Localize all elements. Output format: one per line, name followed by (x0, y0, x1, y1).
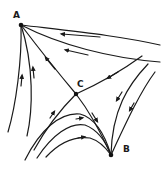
separatrix-ab (34, 56, 142, 155)
arrow-icon (108, 72, 118, 78)
curves-into-b (25, 64, 155, 160)
node-c (74, 92, 78, 96)
arrow-icon (50, 112, 54, 118)
label-c: C (77, 79, 84, 89)
curve-b-right-1 (111, 64, 148, 155)
curve-a-upper-2 (21, 25, 160, 62)
arrow-icon (46, 58, 55, 69)
arrow-icon (117, 92, 122, 100)
arrow-icon (76, 118, 82, 119)
arrow-icon (62, 34, 100, 37)
curve-b-lower-3 (46, 138, 111, 157)
streamline-diagram: A C B (0, 0, 161, 170)
curve-b-lower-1 (25, 114, 111, 160)
arrow-icon (66, 50, 88, 55)
curve-a-left-1 (8, 25, 21, 132)
label-a: A (13, 10, 20, 20)
curves-into-a (8, 25, 160, 136)
node-b (109, 153, 114, 158)
arrow-icon (21, 76, 22, 86)
arrow-icon (33, 68, 34, 78)
separatrix-upper-right (76, 56, 142, 94)
curve-a-left-2 (21, 25, 31, 136)
node-a (19, 23, 24, 28)
label-b: B (123, 144, 130, 154)
